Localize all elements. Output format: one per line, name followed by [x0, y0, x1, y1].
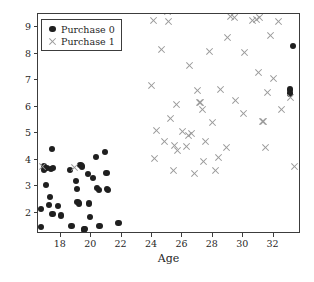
x-axis-tick-label: 20 [84, 238, 96, 249]
cross-marker-icon [254, 68, 263, 77]
cross-marker-icon [199, 157, 208, 166]
y-axis-tick [34, 26, 38, 27]
circle-marker-icon [103, 170, 109, 176]
cross-marker-icon [186, 61, 195, 70]
y-axis-tick [34, 212, 38, 213]
y-axis-tick-label: 2 [25, 206, 31, 217]
circle-marker-icon [50, 165, 56, 171]
cross-marker-icon [262, 143, 271, 152]
x-axis-tick-label: 24 [145, 238, 157, 249]
x-axis-label: Age [37, 252, 300, 265]
legend: Purchase 0 Purchase 1 [41, 19, 122, 51]
y-axis-tick [34, 79, 38, 80]
legend-label: Purchase 1 [59, 36, 115, 47]
cross-marker-icon [222, 143, 231, 152]
cross-marker-icon [211, 166, 220, 175]
y-axis-tick [34, 132, 38, 133]
x-axis-tick [151, 233, 152, 237]
circle-marker-icon [43, 182, 49, 188]
circle-marker-icon [105, 187, 111, 193]
cross-marker-icon [164, 17, 173, 26]
x-axis-tick-label: 30 [236, 238, 248, 249]
cross-marker-icon [205, 47, 214, 56]
x-axis-tick-label: 18 [54, 238, 66, 249]
cross-marker-icon [286, 93, 295, 102]
x-axis-tick [181, 233, 182, 237]
circle-marker-icon [46, 202, 52, 208]
cross-marker-icon [216, 85, 225, 94]
cross-marker-icon [152, 126, 161, 135]
x-axis-tick [90, 233, 91, 237]
cross-marker-icon [166, 114, 175, 123]
cross-marker-icon [208, 118, 217, 127]
cross-marker-icon [230, 14, 239, 22]
y-axis-tick-label: 6 [25, 100, 31, 111]
cross-marker-icon [214, 153, 223, 162]
cross-marker-icon [274, 17, 283, 26]
cross-marker-icon [255, 14, 264, 22]
cross-marker-icon [190, 169, 199, 178]
circle-marker-icon [55, 203, 61, 209]
circle-marker-icon [82, 226, 88, 232]
circle-marker-icon [47, 194, 53, 200]
circle-marker-icon [290, 43, 296, 49]
x-axis-tick-label: 28 [206, 238, 218, 249]
cross-marker-icon [269, 74, 278, 83]
circle-marker-icon [87, 214, 93, 220]
y-axis-tick-label: 7 [25, 74, 31, 85]
circle-marker-icon [115, 220, 121, 226]
circle-marker-icon [76, 200, 82, 206]
circle-marker-icon [93, 154, 99, 160]
cross-marker-icon [201, 137, 210, 146]
y-axis-tick [34, 106, 38, 107]
cross-marker-icon [259, 117, 268, 126]
cross-marker-icon [46, 35, 59, 47]
x-axis-tick [121, 233, 122, 237]
cross-marker-icon [231, 96, 240, 105]
cross-marker-icon [172, 100, 181, 109]
circle-marker-icon [58, 212, 64, 218]
cross-marker-icon [169, 166, 178, 175]
cross-marker-icon [149, 16, 158, 25]
cross-marker-icon [182, 142, 191, 151]
cross-marker-icon [277, 105, 286, 114]
cross-marker-icon [70, 163, 79, 172]
circle-marker-icon [74, 186, 80, 192]
y-axis-tick-label: 9 [25, 21, 31, 32]
circle-marker-icon [102, 149, 108, 155]
x-axis-tick [60, 233, 61, 237]
circle-marker-icon [90, 175, 96, 181]
cross-marker-icon [38, 162, 47, 171]
cross-marker-icon [163, 14, 172, 16]
y-axis-tick [34, 159, 38, 160]
x-axis-tick-label: 32 [267, 238, 279, 249]
y-axis-tick-label: 8 [25, 47, 31, 58]
cross-marker-icon [224, 33, 233, 42]
y-axis-tick-label: 4 [25, 153, 31, 164]
legend-label: Purchase 0 [59, 24, 115, 35]
circle-marker-icon [96, 223, 102, 229]
cross-marker-icon [266, 31, 275, 40]
cross-marker-icon [240, 48, 249, 57]
cross-marker-icon [290, 162, 299, 171]
circle-marker-icon [68, 223, 74, 229]
cross-marker-icon [198, 105, 207, 114]
x-axis-tick [273, 233, 274, 237]
cross-marker-icon [150, 154, 159, 163]
circle-marker-icon [86, 200, 92, 206]
x-axis-tick-label: 22 [115, 238, 127, 249]
circle-marker-icon [79, 163, 85, 169]
cross-marker-icon [239, 109, 248, 118]
circle-marker-icon [96, 187, 102, 193]
y-axis-tick-label: 3 [25, 180, 31, 191]
cross-marker-icon [148, 81, 157, 90]
circle-marker-icon [46, 23, 59, 35]
circle-marker-icon [49, 146, 55, 152]
scatter-plot-figure: Age Experience Purchase 0 Purchase 1 182… [0, 0, 314, 282]
cross-marker-icon [193, 86, 202, 95]
cross-marker-icon [157, 45, 166, 54]
cross-marker-icon [160, 137, 169, 146]
cross-marker-icon [187, 129, 196, 138]
circle-marker-icon [38, 224, 44, 230]
circle-marker-icon [49, 211, 55, 217]
